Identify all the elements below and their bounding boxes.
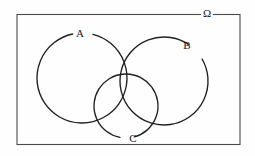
omega-symbol: Ω [203, 7, 211, 19]
venn-diagram-figure: Ω ABC [0, 0, 255, 156]
universe-rectangle [17, 15, 240, 145]
universe-label-group: Ω [201, 7, 213, 21]
set-circle-b [120, 37, 208, 125]
set-label-a: A [76, 27, 84, 39]
set-label-c: C [129, 132, 136, 144]
set-labels-group: ABC [76, 27, 191, 144]
venn-diagram-canvas: Ω ABC [0, 0, 255, 156]
set-label-b: B [183, 39, 190, 51]
set-circle-a [37, 34, 127, 123]
